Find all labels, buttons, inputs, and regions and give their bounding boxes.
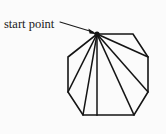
diagonal-0-5 (83, 34, 97, 115)
start-point-label: start point (4, 17, 55, 31)
octagon-diagram: start point (0, 0, 166, 134)
diagonal-0-3 (97, 34, 148, 92)
arrow-head-icon (88, 28, 97, 34)
leader-line (60, 22, 93, 32)
diagonal-group (68, 34, 148, 115)
diagonal-0-4 (97, 34, 134, 115)
